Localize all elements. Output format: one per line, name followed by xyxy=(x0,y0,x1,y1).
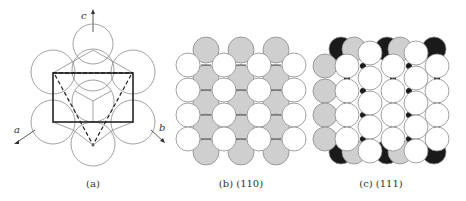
figure-canvas xyxy=(0,0,466,201)
caption-c: (c) (111) xyxy=(341,178,421,189)
panel-b-diagram xyxy=(176,37,306,165)
panel-c-diagram xyxy=(313,37,449,164)
caption-a: (a) xyxy=(73,178,113,189)
axis-label-a: a xyxy=(14,124,20,135)
axis-label-c: c xyxy=(81,10,87,21)
caption-b: (b) (110) xyxy=(201,178,281,189)
axis-label-b: b xyxy=(159,122,165,133)
panel-a-diagram xyxy=(14,9,165,166)
